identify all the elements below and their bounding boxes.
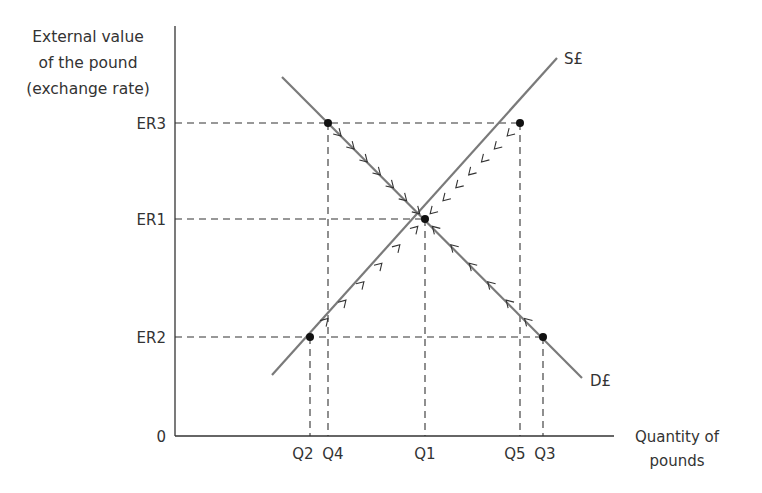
y-tick-er1: ER1 xyxy=(137,211,166,229)
x-tick-q3: Q3 xyxy=(534,445,555,463)
y-axis-title-line1: External value xyxy=(32,28,144,46)
y-tick-er2: ER2 xyxy=(137,329,166,347)
x-tick-q1: Q1 xyxy=(414,445,435,463)
origin-label: 0 xyxy=(156,428,166,446)
y-tick-er3: ER3 xyxy=(137,115,166,133)
supply-curve xyxy=(272,58,557,375)
exchange-rate-diagram: External value of the pound (exchange ra… xyxy=(0,0,762,493)
x-axis-title-line2: pounds xyxy=(649,452,704,470)
point-er3-q4 xyxy=(324,119,332,127)
x-tick-q4: Q4 xyxy=(322,445,343,463)
x-tick-q5: Q5 xyxy=(504,445,525,463)
point-equilibrium xyxy=(421,215,429,223)
supply-label: S£ xyxy=(564,50,583,68)
x-tick-q2: Q2 xyxy=(292,445,313,463)
point-er3-q5 xyxy=(516,119,524,127)
x-axis-title-line1: Quantity of xyxy=(635,428,720,446)
point-er2-q2 xyxy=(306,333,314,341)
y-axis-title-line2: of the pound xyxy=(38,54,137,72)
point-er2-q3 xyxy=(539,333,547,341)
y-axis-title-line3: (exchange rate) xyxy=(26,80,150,98)
demand-label: D£ xyxy=(590,372,611,390)
